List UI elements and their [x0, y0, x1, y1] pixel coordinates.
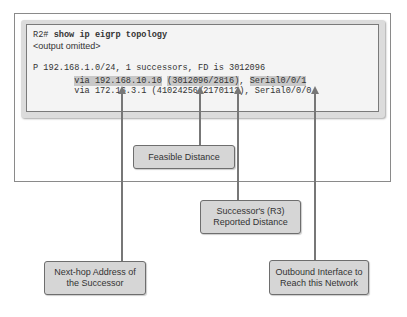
next-hop-address: via 192.168.10.10: [74, 76, 162, 86]
terminal-output: R2# show ip eigrp topology <output omitt…: [26, 24, 379, 112]
arrow-reported-distance: [237, 92, 239, 200]
command-line: R2# show ip eigrp topology: [33, 29, 167, 41]
callout-outbound-interface: Outbound Interface to Reach this Network: [269, 260, 369, 295]
prompt: R2#: [33, 30, 48, 40]
command: show ip eigrp topology: [48, 30, 167, 40]
output-omitted: <output omitted>: [33, 41, 101, 52]
callout-reported-distance: Successor's (R3) Reported Distance: [200, 200, 301, 234]
outbound-interface: Serial0/0/1: [250, 76, 307, 86]
arrow-next-hop: [121, 92, 123, 261]
successor-metrics: (3012096/2816): [167, 76, 239, 86]
route-line: P 192.168.1.0/24, 1 successors, FD is 30…: [33, 63, 265, 74]
arrow-outbound-interface: [314, 92, 316, 260]
arrow-feasible-distance: [199, 92, 201, 145]
feasible-successor-line: via 172.16.3.1 (41024256/2170112), Seria…: [33, 86, 311, 97]
callout-feasible-distance: Feasible Distance: [133, 145, 235, 169]
callout-next-hop: Next-hop Address of the Successor: [44, 261, 146, 295]
